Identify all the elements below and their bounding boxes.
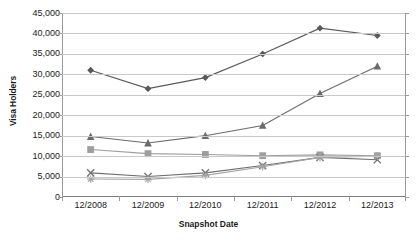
data-point-asterisk (202, 172, 210, 180)
gridline (62, 156, 406, 157)
x-tick-label: 12/2010 (189, 200, 222, 211)
y-tickmark (405, 13, 409, 14)
data-point-diamond (145, 85, 152, 92)
y-tick-label: 0 (14, 193, 60, 202)
y-axis-tick-labels: 45,00040,00035,00030,00025,00020,00015,0… (14, 0, 60, 243)
y-tickmark (405, 156, 409, 157)
line-chart: Visa Holders 45,00040,00035,00030,00025,… (0, 0, 417, 243)
y-tickmark (58, 136, 62, 137)
y-tickmark (405, 74, 409, 75)
data-point-square (87, 146, 94, 153)
x-tick-label: 12/2011 (247, 200, 279, 211)
gridline (62, 136, 406, 137)
gridline (62, 13, 406, 14)
y-tick-label: 35,000 (14, 49, 60, 58)
gridline (62, 95, 406, 96)
y-tickmark (405, 33, 409, 34)
y-tickmark (58, 115, 62, 116)
x-tick-label: 12/2013 (361, 200, 394, 211)
data-point-triangle (259, 121, 267, 128)
gridline (62, 54, 406, 55)
y-tickmark (58, 95, 62, 96)
gridline (62, 74, 406, 75)
data-point-triangle (374, 62, 382, 69)
y-tick-label: 45,000 (14, 9, 60, 18)
x-tick-label: 12/2012 (304, 200, 337, 211)
y-tick-label: 15,000 (14, 131, 60, 140)
y-tickmark (405, 54, 409, 55)
y-tickmark (58, 177, 62, 178)
data-point-triangle (316, 90, 324, 97)
y-tickmark (58, 156, 62, 157)
y-tick-label: 25,000 (14, 90, 60, 99)
y-tickmark (405, 95, 409, 96)
x-tick-label: 12/2009 (132, 200, 165, 211)
y-tickmark (58, 74, 62, 75)
data-point-asterisk (316, 154, 324, 162)
y-tickmark (405, 115, 409, 116)
y-tickmark (405, 177, 409, 178)
y-tickmark (58, 13, 62, 14)
series-layer (62, 13, 406, 197)
plot-area (62, 13, 406, 197)
series-diamond (87, 25, 380, 92)
data-point-diamond (87, 67, 94, 74)
data-point-diamond (317, 25, 324, 32)
x-axis-title: Snapshot Date (0, 219, 417, 229)
y-tickmark (58, 33, 62, 34)
gridline (62, 115, 406, 116)
x-tick-label: 12/2008 (74, 200, 107, 211)
y-tick-label: 40,000 (14, 29, 60, 38)
data-point-asterisk (259, 163, 267, 171)
y-tick-label: 10,000 (14, 152, 60, 161)
y-tick-label: 30,000 (14, 70, 60, 79)
gridline (62, 177, 406, 178)
y-tickmark (58, 54, 62, 55)
x-axis-tick-labels: 12/200812/200912/201012/201112/201212/20… (62, 200, 406, 214)
y-tick-label: 5,000 (14, 172, 60, 181)
y-tickmark (405, 136, 409, 137)
gridline (62, 33, 406, 34)
y-tick-label: 20,000 (14, 111, 60, 120)
